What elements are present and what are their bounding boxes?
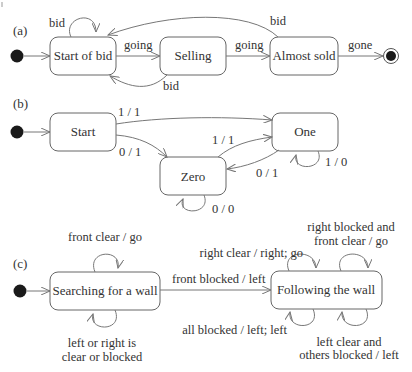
initial-state-c	[14, 285, 27, 298]
transition-label: 1 / 1	[118, 105, 140, 119]
edge-zero-self	[182, 195, 205, 211]
edge-following-self-bottomright	[342, 309, 368, 326]
transition-label: right clear / right; go	[200, 246, 303, 260]
edge-searching-self-bottom	[93, 310, 117, 327]
transition-label: going	[124, 38, 153, 52]
transition-label: front clear / go	[68, 230, 142, 244]
transition-label: 0 / 1	[256, 166, 278, 180]
transition-label: bid	[49, 16, 66, 30]
transition-label: 0 / 0	[212, 202, 234, 216]
initial-state-b	[11, 126, 24, 139]
state-label: Start of bid	[54, 48, 113, 63]
state-label: Almost sold	[272, 48, 336, 63]
edge-bid-back	[110, 75, 167, 86]
edge-searching-self-top	[94, 254, 119, 272]
state-label: Zero	[181, 169, 206, 184]
state-label: Start	[71, 124, 96, 139]
state-label: One	[294, 124, 316, 139]
state-searching-for-a-wall: Searching for a wall	[50, 272, 160, 310]
transition-label: all blocked / left; left	[182, 323, 287, 337]
state-selling: Selling	[160, 37, 226, 75]
initial-state-a	[11, 50, 24, 63]
state-start: Start	[50, 113, 116, 151]
transition-label: left or right is	[68, 336, 137, 350]
edge-self-bid	[69, 18, 96, 37]
edge-following-self-bottomleft	[290, 309, 315, 326]
edge-following-self-topright	[340, 254, 368, 271]
transition-label: bid	[270, 14, 287, 28]
panel-a: (a) Start of bid Selling Almost sold bid…	[11, 14, 399, 93]
edge-bid-top	[108, 17, 278, 37]
state-almost-sold: Almost sold	[270, 37, 338, 75]
transition-label: bid	[163, 79, 180, 93]
panel-label-c: (c)	[13, 256, 27, 271]
transition-label: clear or blocked	[62, 350, 143, 364]
state-label: Searching for a wall	[52, 283, 157, 298]
panel-b: (b) Start One Zero 1 / 1 0 / 1 1 / 1 0 /…	[11, 96, 348, 216]
transition-label: front blocked / left	[172, 272, 266, 286]
panel-label-b: (b)	[13, 96, 28, 111]
transition-label: right blocked and	[307, 220, 395, 234]
transition-label: gone	[348, 38, 373, 52]
state-machine-diagrams: (a) Start of bid Selling Almost sold bid…	[0, 0, 412, 372]
transition-label: front clear / go	[314, 234, 388, 248]
panel-label-a: (a)	[13, 23, 27, 38]
transition-label: others blocked / left	[299, 348, 399, 362]
state-zero: Zero	[160, 157, 226, 195]
edge-one-self	[296, 151, 320, 167]
final-state	[384, 49, 399, 64]
panel-c: (c) Searching for a wall Following the w…	[13, 220, 399, 364]
state-label: Selling	[175, 48, 212, 63]
state-one: One	[272, 113, 338, 151]
state-following-the-wall: Following the wall	[271, 271, 382, 309]
transition-label: 1 / 1	[212, 133, 234, 147]
transition-label: left clear and	[316, 335, 382, 349]
transition-label: 0 / 1	[119, 145, 141, 159]
state-start-of-bid: Start of bid	[50, 37, 116, 75]
transition-label: 1 / 0	[325, 155, 347, 169]
state-label: Following the wall	[277, 282, 376, 297]
transition-label: going	[235, 38, 264, 52]
